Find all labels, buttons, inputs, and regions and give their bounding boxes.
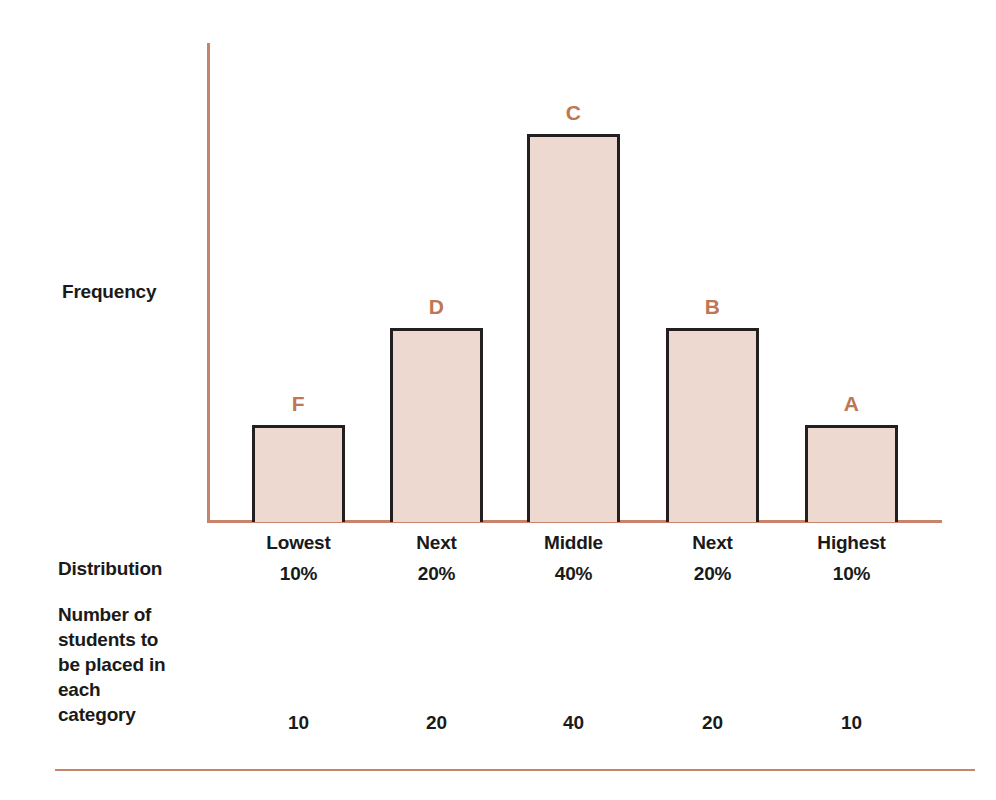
student-count-d: 20 xyxy=(360,712,513,734)
student-count-c: 40 xyxy=(497,712,650,734)
x-tick-middle-2: Middle40% xyxy=(497,532,650,585)
x-tick-next-3: Next20% xyxy=(636,532,789,585)
x-tick-highest-4: Highest10% xyxy=(775,532,928,585)
x-tick-next-1: Next20% xyxy=(360,532,513,585)
x-tick-percent: 20% xyxy=(360,563,513,585)
bar-f xyxy=(252,425,345,522)
students-row-label: Number of students to be placed in each … xyxy=(58,602,258,727)
x-tick-lowest-0: Lowest10% xyxy=(222,532,375,585)
x-tick-percent: 10% xyxy=(775,563,928,585)
x-tick-percent: 40% xyxy=(497,563,650,585)
bar-grade-label-d: D xyxy=(390,295,483,319)
student-count-b: 20 xyxy=(636,712,789,734)
plot-area: Frequency FDCBA xyxy=(0,0,996,545)
x-tick-name: Next xyxy=(636,532,789,554)
bar-b xyxy=(666,328,759,522)
x-tick-name: Highest xyxy=(775,532,928,554)
x-tick-name: Next xyxy=(360,532,513,554)
distribution-row-label: Distribution xyxy=(58,556,162,581)
y-axis-line xyxy=(207,43,210,523)
bar-grade-label-a: A xyxy=(805,392,898,416)
bar-a xyxy=(805,425,898,522)
bar-c xyxy=(527,134,620,522)
y-axis-label: Frequency xyxy=(62,281,156,303)
chart-page: Frequency FDCBA Lowest10%Next20%Middle40… xyxy=(0,0,996,800)
x-tick-percent: 20% xyxy=(636,563,789,585)
bottom-divider xyxy=(55,769,975,771)
student-count-a: 10 xyxy=(775,712,928,734)
bar-d xyxy=(390,328,483,522)
bar-grade-label-b: B xyxy=(666,295,759,319)
student-count-f: 10 xyxy=(222,712,375,734)
bar-grade-label-c: C xyxy=(527,101,620,125)
bar-grade-label-f: F xyxy=(252,392,345,416)
x-tick-percent: 10% xyxy=(222,563,375,585)
x-tick-name: Middle xyxy=(497,532,650,554)
x-tick-name: Lowest xyxy=(222,532,375,554)
